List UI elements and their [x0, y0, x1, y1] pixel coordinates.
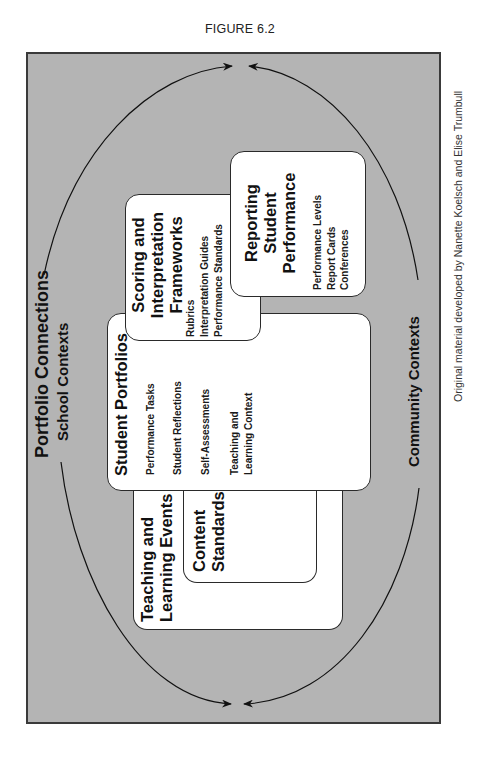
reporting-item: Report Cards: [325, 195, 339, 290]
scoring-item: Rubrics: [184, 224, 198, 337]
portfolio-item: Teaching and: [229, 411, 241, 475]
scoring-frameworks-title: Scoring and Interpretation Frameworks: [129, 195, 186, 335]
portfolio-item: Performance Tasks: [145, 383, 157, 475]
content-standards-title: Content Standards: [190, 491, 228, 572]
school-contexts-label: School Contexts: [54, 323, 71, 441]
scoring-items: Rubrics Interpretation Guides Performanc…: [184, 224, 226, 337]
scoring-item: Performance Standards: [212, 224, 226, 337]
diagram-title: Portfolio Connections: [32, 270, 52, 458]
figure-label: FIGURE 6.2: [0, 22, 480, 36]
reporting-title-line3: Performance: [280, 156, 299, 290]
scoring-item: Interpretation Guides: [198, 224, 212, 337]
teaching-events-title: Teaching and Learning Events: [138, 494, 176, 622]
reporting-item: Performance Levels: [311, 195, 325, 290]
reporting-title-line1: Reporting: [242, 156, 261, 290]
reporting-items: Performance Levels Report Cards Conferen…: [311, 195, 352, 290]
content-standards-title-line1: Content: [190, 491, 209, 572]
portfolio-item: Self-Assessments: [200, 389, 212, 475]
reporting-performance-title: Reporting Student Performance: [242, 156, 299, 290]
scoring-title-line2: Interpretation: [148, 195, 167, 335]
community-contexts-label: Community Contexts: [405, 316, 422, 467]
reporting-item: Conferences: [338, 195, 352, 290]
content-standards-title-line2: Standards: [209, 491, 228, 572]
reporting-title-line2: Student: [261, 156, 280, 290]
teaching-events-title-line1: Teaching and: [138, 494, 157, 622]
portfolio-item: Student Reflections: [172, 381, 184, 475]
portfolio-item: Learning Context: [243, 393, 255, 475]
scoring-title-line1: Scoring and: [129, 195, 148, 335]
teaching-events-title-line2: Learning Events: [157, 494, 176, 622]
student-portfolios-title: Student Portfolios: [112, 333, 131, 476]
credit-text: Original material developed by Nanette K…: [452, 91, 464, 402]
